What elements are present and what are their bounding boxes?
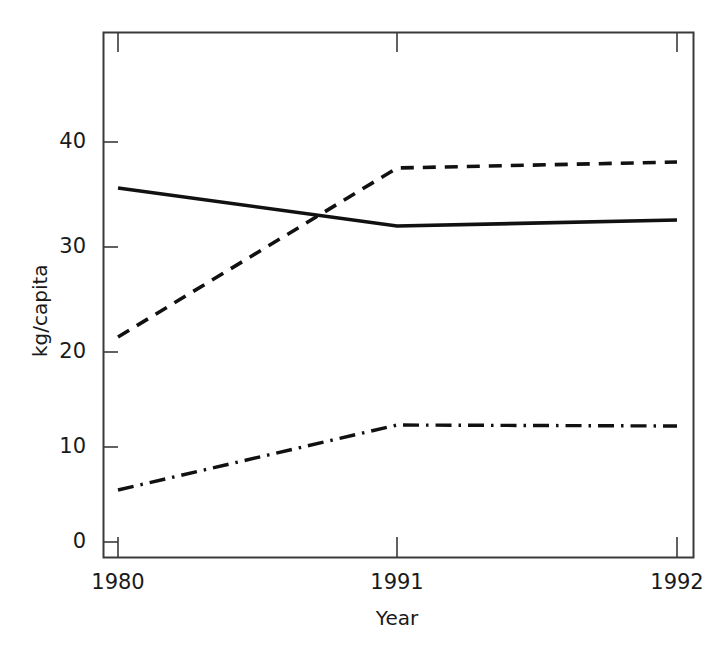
- plot-frame: [104, 33, 694, 558]
- series-line-solid: [118, 188, 677, 226]
- y-axis-ticks: [104, 142, 119, 542]
- plot-area-svg: [0, 0, 724, 651]
- series-line-dashdot: [118, 425, 677, 490]
- y-tick-label-30: 30: [36, 236, 86, 257]
- chart-container: 40 30 20 10 0 1980 1991 1992 kg/capita Y…: [0, 0, 724, 651]
- y-tick-label-0: 0: [36, 531, 86, 552]
- x-tick-label-1980: 1980: [68, 572, 168, 593]
- series-line-dashed: [118, 162, 677, 337]
- x-axis-label: Year: [347, 608, 447, 628]
- y-tick-label-40: 40: [36, 131, 86, 152]
- x-tick-label-1991: 1991: [347, 572, 447, 593]
- y-tick-label-10: 10: [36, 436, 86, 457]
- data-series-group: [118, 162, 677, 490]
- x-axis-ticks: [118, 537, 677, 557]
- x-axis-top-ticks: [118, 33, 677, 53]
- x-tick-label-1992: 1992: [627, 572, 724, 593]
- y-axis-label: kg/capita: [30, 264, 50, 357]
